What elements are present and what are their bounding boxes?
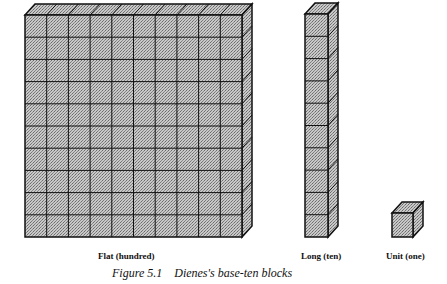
figure-caption: Figure 5.1 Dienes's base-ten blocks bbox=[112, 266, 292, 281]
long-block bbox=[305, 3, 338, 237]
unit-block bbox=[392, 202, 423, 237]
flat-label: Flat (hundred) bbox=[98, 251, 155, 261]
flat-block bbox=[25, 4, 252, 237]
unit-front-face bbox=[392, 213, 413, 237]
long-label: Long (ten) bbox=[301, 251, 341, 261]
unit-label: Unit (one) bbox=[386, 251, 425, 261]
base-ten-blocks-diagram bbox=[0, 0, 447, 284]
